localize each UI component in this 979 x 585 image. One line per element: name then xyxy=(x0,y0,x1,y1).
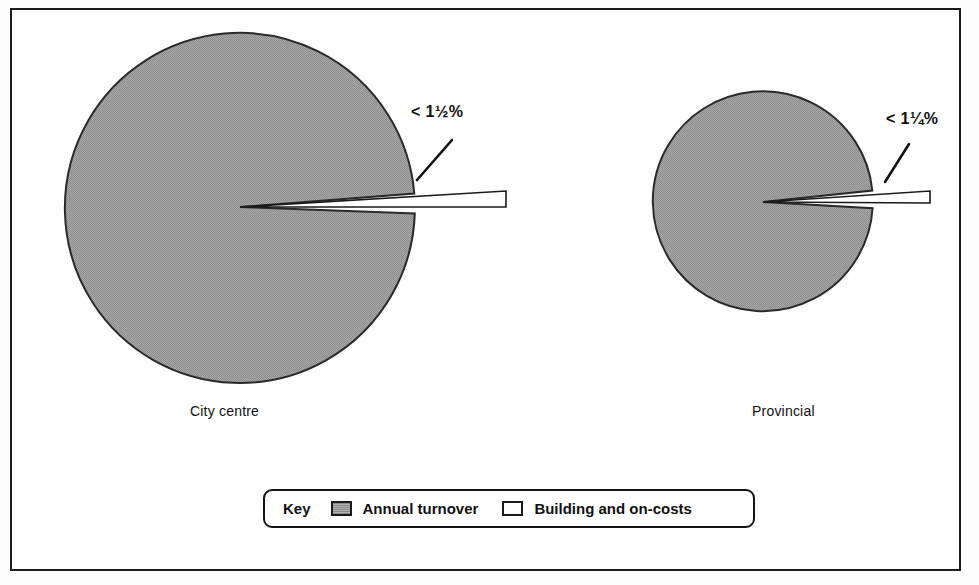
legend-label-annual-turnover: Annual turnover xyxy=(363,500,479,517)
pie-provincial-annotation: < 1¼% xyxy=(886,110,938,128)
pie-provincial-leader-line xyxy=(885,144,909,182)
pie-provincial-caption: Provincial xyxy=(752,403,815,419)
legend-swatch-gray-icon xyxy=(331,501,352,516)
pie-city-caption: City centre xyxy=(190,403,259,419)
legend: Key Annual turnover Building and on-cost… xyxy=(263,489,755,528)
legend-key-label: Key xyxy=(283,500,311,517)
pie-city-centre xyxy=(65,33,506,383)
legend-label-building-on-costs: Building and on-costs xyxy=(534,500,692,517)
legend-entry-building-on-costs: Building and on-costs xyxy=(502,500,692,517)
pie-city-slice-annual-turnover xyxy=(65,33,415,383)
legend-entry-annual-turnover: Annual turnover xyxy=(331,500,479,517)
figure-canvas: < 1½% < 1¼% City centre Provincial Key A… xyxy=(0,0,979,585)
pie-city-leader-line xyxy=(417,140,452,180)
legend-swatch-white-icon xyxy=(502,501,523,516)
pie-city-annotation: < 1½% xyxy=(411,103,463,121)
